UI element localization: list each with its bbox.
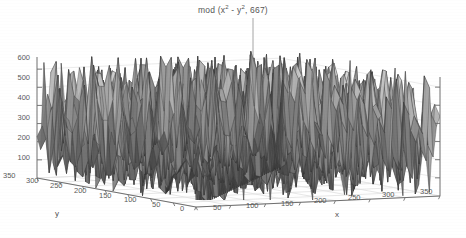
y-tick-100: 100 — [124, 196, 137, 204]
y-tick-300: 300 — [26, 177, 39, 185]
z-tick-300: 300 — [2, 114, 30, 122]
x-axis-label: x — [335, 210, 339, 219]
y-tick-50: 50 — [152, 201, 160, 209]
z-tick-600: 600 — [2, 54, 30, 62]
figure-canvas: mod (x2 - y2, 667) 60 — [0, 0, 466, 238]
surface-plot — [0, 0, 466, 238]
y-tick-350: 350 — [3, 172, 16, 180]
z-tick-100: 100 — [2, 154, 30, 162]
z-tick-200: 200 — [2, 134, 30, 142]
y-tick-200: 200 — [74, 187, 87, 195]
x-tick-250: 250 — [348, 194, 361, 202]
x-tick-300: 300 — [382, 191, 395, 199]
y-tick-0: 0 — [180, 205, 184, 213]
x-tick-100: 100 — [246, 202, 259, 210]
x-tick-50: 50 — [213, 204, 221, 212]
z-tick-400: 400 — [2, 94, 30, 102]
x-tick-150: 150 — [281, 200, 294, 208]
surface-mesh — [37, 51, 440, 207]
y-tick-250: 250 — [50, 182, 63, 190]
x-tick-200: 200 — [314, 197, 327, 205]
z-tick-500: 500 — [2, 74, 30, 82]
y-axis-label: y — [55, 209, 59, 218]
x-tick-350: 350 — [420, 188, 433, 196]
y-tick-150: 150 — [99, 192, 112, 200]
